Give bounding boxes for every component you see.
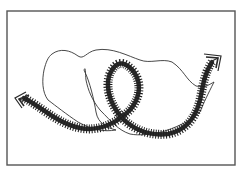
diagram-figure <box>0 0 252 181</box>
